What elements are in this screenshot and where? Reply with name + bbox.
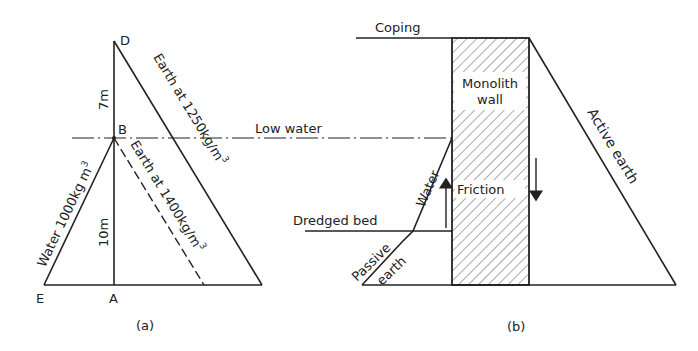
earth-1400-label: Earth at 1400kg/m3 — [127, 137, 208, 255]
label-d: D — [120, 33, 130, 48]
wall-label-line1: Monolith — [462, 76, 518, 91]
dredged-bed-label: Dredged bed — [293, 213, 377, 228]
friction-label: Friction — [457, 182, 505, 197]
active-earth-line — [529, 38, 676, 285]
wall-label-line2: wall — [477, 92, 503, 107]
dimension-10m: 10m — [96, 218, 111, 247]
earth-1400-line — [114, 138, 204, 285]
diagram-a: D B E A 7m 10m Water 1000kg m3 Earth at … — [32, 33, 262, 333]
earth-1250-line — [114, 41, 262, 285]
dimension-7m: 7m — [96, 89, 111, 110]
water-pressure-line — [44, 138, 114, 285]
coping-label: Coping — [375, 20, 420, 35]
caption-a: (a) — [136, 318, 154, 333]
label-b: B — [118, 122, 127, 137]
earth-1250-label: Earth at 1250kg/m3 — [150, 50, 231, 168]
low-water-label: Low water — [255, 121, 322, 136]
caption-b: (b) — [507, 319, 525, 334]
label-a: A — [109, 291, 118, 306]
water-label-a: Water 1000kg m3 — [32, 159, 96, 269]
water-label-b: Water — [413, 167, 443, 209]
label-e: E — [36, 291, 44, 306]
figure: D B E A 7m 10m Water 1000kg m3 Earth at … — [0, 0, 698, 351]
